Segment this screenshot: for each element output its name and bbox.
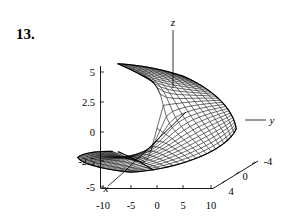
- horizontal-tick-label: 5: [180, 200, 185, 211]
- vertical-tick-label: 5: [90, 67, 95, 78]
- vertical-tick-label: 0: [90, 127, 95, 138]
- horizontal-tick-label: 0: [154, 200, 159, 211]
- vertical-tick-label: -5: [86, 182, 95, 193]
- horizontal-tick-label: -10: [96, 200, 110, 211]
- depth-tick-label: 4: [228, 186, 234, 197]
- horizontal-tick-label: -5: [127, 200, 136, 211]
- surface-plot: 5 2.5 0 -2.5 -5 -10 -5 0 5 10 4 0 -4 z y…: [0, 0, 293, 222]
- depth-tick-label: 0: [242, 171, 247, 182]
- x-axis-leader-line: [108, 172, 124, 186]
- y-axis-label: y: [269, 114, 275, 126]
- vertical-tick-label: 2.5: [82, 97, 95, 108]
- vertical-tick-label: -2.5: [78, 156, 95, 167]
- x-axis-label: x: [103, 182, 109, 194]
- horizontal-tick-label: 10: [206, 200, 217, 211]
- z-axis-label: z: [170, 16, 176, 28]
- surface-mesh-group: [78, 64, 236, 172]
- depth-tick: [222, 181, 225, 183]
- depth-tick-label: -4: [264, 156, 273, 167]
- depth-axis-line: [213, 161, 258, 189]
- figure-container: 13. 5 2.5 0 -2.5 -5 -10 -5 0 5 10 4 0 -4…: [0, 0, 293, 222]
